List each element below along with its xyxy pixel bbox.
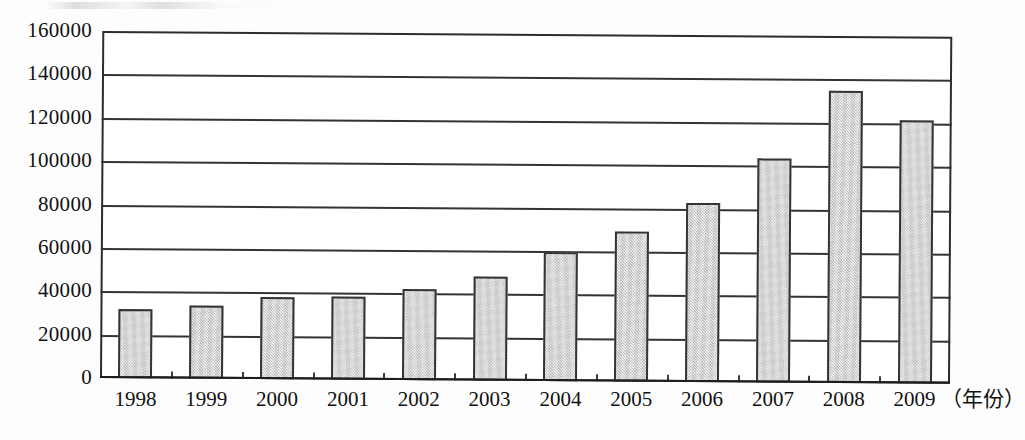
bar-slot <box>667 35 740 382</box>
bar[interactable] <box>614 232 649 382</box>
bar-slot <box>383 33 456 380</box>
x-axis-tick-label: 1998 <box>114 386 156 412</box>
bar[interactable] <box>543 252 578 381</box>
bar-slot <box>737 35 810 382</box>
bar[interactable] <box>118 309 152 379</box>
x-axis-tick-label: 2003 <box>469 386 511 412</box>
bar[interactable] <box>473 276 508 380</box>
bar-slot <box>242 32 315 379</box>
bar-chart: 0200004000060000800001000001200001400001… <box>0 0 1025 440</box>
x-axis-tick-label: 2002 <box>398 386 440 412</box>
bar[interactable] <box>756 158 791 383</box>
bar[interactable] <box>331 296 366 380</box>
y-axis-tick-label: 120000 <box>0 107 92 128</box>
y-axis-tick-label: 80000 <box>0 194 92 215</box>
x-axis-tick-label: 2000 <box>256 386 298 412</box>
y-axis-tick-labels: 0200004000060000800001000001200001400001… <box>0 0 92 440</box>
x-axis-tick-label: 2006 <box>681 386 723 412</box>
x-axis-tick-labels: 1998199920002001200220032004200520062007… <box>100 386 950 426</box>
y-axis-tick-label: 100000 <box>0 150 92 171</box>
x-axis-tick-label: 2007 <box>752 386 794 412</box>
bar[interactable] <box>827 91 863 383</box>
bar-slot <box>100 31 173 378</box>
x-axis-tick-label: 2001 <box>327 386 369 412</box>
bar[interactable] <box>189 306 223 379</box>
y-axis-tick-label: 0 <box>0 367 92 388</box>
x-axis-unit-label: （年份） <box>941 386 1025 412</box>
bar-slot <box>525 34 598 381</box>
x-axis-tick-label: 2009 <box>894 386 936 412</box>
y-axis-tick-label: 140000 <box>0 63 92 84</box>
y-axis-tick-label: 40000 <box>0 280 92 301</box>
y-axis-tick-label: 20000 <box>0 324 92 345</box>
bar[interactable] <box>402 289 437 380</box>
bar-slot <box>171 31 244 378</box>
bar-slot <box>312 32 385 379</box>
x-axis-tick-label: 1999 <box>185 386 227 412</box>
bar-slot <box>454 33 527 380</box>
plot-area <box>100 31 952 384</box>
bar-slot <box>879 36 952 383</box>
x-axis-tick-label: 2005 <box>610 386 652 412</box>
x-axis-tick-label: 2008 <box>823 386 865 412</box>
bar[interactable] <box>260 297 295 379</box>
bars-layer <box>100 31 952 384</box>
bar[interactable] <box>898 120 934 384</box>
y-axis-tick-label: 160000 <box>0 20 92 41</box>
bar-slot <box>808 36 881 383</box>
y-axis-tick-label: 60000 <box>0 237 92 258</box>
x-axis-tick-label: 2004 <box>539 386 581 412</box>
bar[interactable] <box>685 203 720 382</box>
bar-slot <box>596 34 669 381</box>
